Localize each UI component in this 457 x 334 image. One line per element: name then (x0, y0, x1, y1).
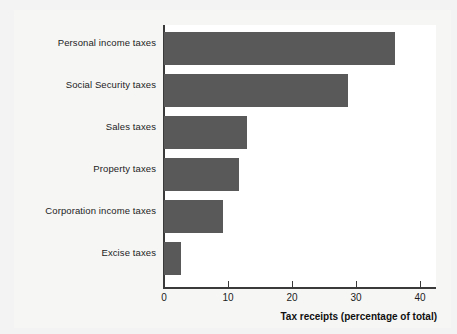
x-tick-10 (228, 281, 229, 287)
x-tick-20 (292, 281, 293, 287)
x-tick-40 (420, 281, 421, 287)
x-tick-label-40: 40 (414, 292, 425, 303)
x-tick-label-0: 0 (161, 292, 167, 303)
bars-container (164, 25, 436, 287)
category-label-social-security-taxes: Social Security taxes (6, 79, 156, 90)
x-tick-label-10: 10 (222, 292, 233, 303)
bar-row (164, 74, 348, 107)
x-axis-line (163, 287, 436, 289)
bar-row (164, 200, 223, 233)
bar-excise-taxes (164, 242, 181, 275)
bar-row (164, 158, 239, 191)
bar-social-security-taxes (164, 74, 348, 107)
bar-row (164, 242, 181, 275)
bar-personal-income-taxes (164, 32, 395, 65)
bar-corporation-income-taxes (164, 200, 223, 233)
x-tick-label-30: 30 (350, 292, 361, 303)
bar-sales-taxes (164, 116, 247, 149)
bar-chart-figure: Personal income taxes Social Security ta… (0, 0, 457, 334)
x-axis-title: Tax receipts (percentage of total) (280, 311, 437, 322)
category-label-excise-taxes: Excise taxes (6, 247, 156, 258)
category-label-personal-income-taxes: Personal income taxes (6, 37, 156, 48)
category-label-property-taxes: Property taxes (6, 163, 156, 174)
x-tick-0 (164, 281, 165, 287)
category-label-sales-taxes: Sales taxes (6, 121, 156, 132)
bar-row (164, 116, 247, 149)
bar-row (164, 32, 395, 65)
category-label-corporation-income-taxes: Corporation income taxes (6, 205, 156, 216)
bar-property-taxes (164, 158, 239, 191)
x-tick-30 (356, 281, 357, 287)
x-tick-label-20: 20 (286, 292, 297, 303)
